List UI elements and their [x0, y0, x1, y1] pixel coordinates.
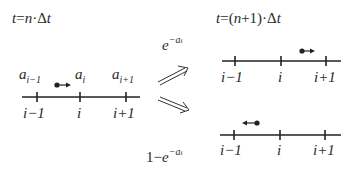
a-symbol: a — [19, 66, 27, 82]
lower-site-label-left: i−1 — [220, 143, 242, 158]
subscript: i — [83, 74, 86, 85]
exp-power: −a — [169, 34, 181, 45]
plus-one: +1 — [241, 10, 257, 26]
equals-sign: = — [220, 10, 228, 26]
site-label-center: i — [77, 106, 81, 121]
a-symbol: a — [112, 66, 120, 82]
left-particle — [54, 82, 71, 87]
subscript: i+1 — [120, 74, 135, 85]
time-label-right: t=(n+1)·Δt — [216, 11, 281, 26]
site-value-center: ai — [75, 67, 85, 82]
site-value-left: ai−1 — [19, 67, 41, 82]
jump-probability: 1−e−ai — [146, 150, 182, 165]
exp-power: −a — [169, 146, 181, 157]
upper-site-label-right: i+1 — [314, 70, 336, 85]
upper-lattice — [222, 56, 341, 66]
exp-base: e — [162, 37, 169, 53]
delta-symbol: Δ — [267, 10, 277, 26]
left-lattice — [22, 92, 140, 102]
transition-arrow-down-icon — [158, 97, 189, 113]
exp-base: e — [162, 149, 169, 165]
stay-probability: e−ai — [162, 38, 182, 53]
lower-site-label-center: i — [277, 143, 281, 158]
t-symbol: t — [277, 10, 281, 26]
subscript: i−1 — [27, 74, 42, 85]
lower-site-label-right: i+1 — [313, 143, 335, 158]
t-symbol: t — [47, 10, 51, 26]
upper-site-label-center: i — [278, 70, 282, 85]
site-value-right: ai+1 — [112, 67, 134, 82]
exp-subscript: i — [180, 149, 182, 157]
minus-sign: − — [154, 149, 162, 165]
equals-sign: = — [16, 10, 24, 26]
upper-site-label-left: i−1 — [221, 70, 243, 85]
a-symbol: a — [75, 66, 83, 82]
site-label-left: i−1 — [23, 106, 45, 121]
exp-subscript: i — [180, 37, 182, 45]
delta-symbol: Δ — [37, 10, 47, 26]
diagram-graphics — [0, 0, 360, 169]
time-label-left: t=n·Δt — [12, 11, 51, 26]
site-label-right: i+1 — [113, 106, 135, 121]
transition-arrow-up-icon — [158, 66, 188, 85]
upper-particle — [299, 48, 315, 53]
one: 1 — [146, 149, 154, 165]
lower-particle — [242, 120, 260, 125]
lower-lattice — [220, 130, 341, 140]
